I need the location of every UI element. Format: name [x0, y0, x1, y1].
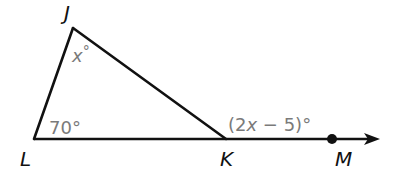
- angle-label-exterior-k: (2x − 5)°: [228, 114, 311, 135]
- side-jk: [73, 28, 226, 139]
- point-m-dot: [327, 134, 337, 144]
- triangle-diagram: J L K M x° 70° (2x − 5)°: [0, 0, 394, 178]
- vertex-label-m: M: [335, 147, 352, 171]
- vertex-label-l: L: [20, 147, 31, 171]
- angle-label-l: 70°: [49, 117, 81, 138]
- vertex-label-k: K: [220, 147, 235, 171]
- angle-label-j: x°: [71, 43, 90, 66]
- vertex-label-j: J: [60, 1, 70, 25]
